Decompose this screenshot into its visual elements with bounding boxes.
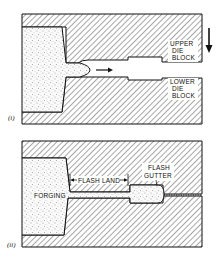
panel-ii: FLASH LAND FLASH GUTTER FORGING (ii) xyxy=(7,141,202,249)
metal-flow-arrow-icon xyxy=(96,68,113,73)
die-motion-arrow-icon xyxy=(206,28,213,53)
upper-die-label-3: BLOCK xyxy=(172,54,196,61)
panel-label-ii: (ii) xyxy=(7,241,16,249)
flash-gutter-label-2: GUTTER xyxy=(144,172,172,179)
panel-label-i: (i) xyxy=(8,114,15,122)
lower-die-label-3: BLOCK xyxy=(172,92,196,99)
upper-die-label-1: UPPER xyxy=(170,40,194,47)
forging-label: FORGING xyxy=(34,192,66,199)
flash-land-label: FLASH LAND xyxy=(78,177,120,184)
lower-die-label-2: DIE xyxy=(172,85,184,92)
flash-gutter-label-1: FLASH xyxy=(148,164,170,171)
upper-die-label-2: DIE xyxy=(172,47,184,54)
panel-i: UPPER DIE BLOCK LOWER DIE BLOCK (i) xyxy=(8,14,213,124)
closed-die-forging-diagram: UPPER DIE BLOCK LOWER DIE BLOCK (i) FLAS… xyxy=(0,0,218,257)
lower-die-label-1: LOWER xyxy=(170,78,195,85)
